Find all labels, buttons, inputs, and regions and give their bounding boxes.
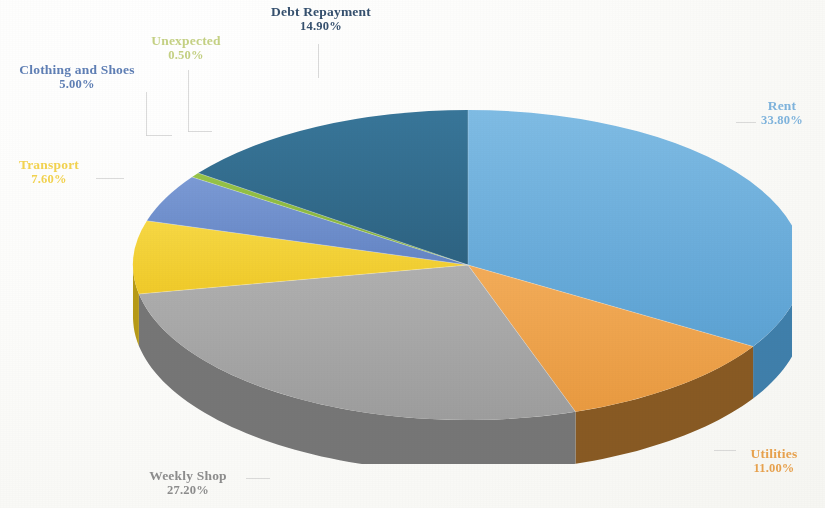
- leader-line-unexpected-v: [188, 70, 189, 132]
- data-label-weekly-shop: Weekly Shop 27.20%: [126, 468, 250, 497]
- data-label-weekly-shop-percent: 27.20%: [126, 483, 250, 497]
- data-label-unexpected-percent: 0.50%: [128, 48, 244, 62]
- data-label-rent-percent: 33.80%: [738, 113, 825, 127]
- data-label-debt-repayment: Debt Repayment 14.90%: [246, 4, 396, 33]
- leader-line-clothing-h: [146, 135, 172, 136]
- data-label-utilities: Utilities 11.00%: [722, 446, 825, 475]
- pie-chart-figure: Debt Repayment 14.90% Unexpected 0.50% C…: [0, 0, 825, 508]
- data-label-clothing-and-shoes-percent: 5.00%: [0, 77, 156, 91]
- data-label-unexpected-name: Unexpected: [128, 33, 244, 48]
- data-label-debt-repayment-name: Debt Repayment: [246, 4, 396, 19]
- data-label-debt-repayment-percent: 14.90%: [246, 19, 396, 33]
- leader-line-unexpected-h: [188, 131, 212, 132]
- data-label-transport-percent: 7.60%: [0, 172, 104, 186]
- leader-line-debt-repayment: [318, 44, 319, 78]
- leader-line-clothing-v: [146, 92, 147, 136]
- pie-chart-graphic: [92, 52, 792, 464]
- data-label-weekly-shop-name: Weekly Shop: [126, 468, 250, 483]
- data-label-utilities-percent: 11.00%: [722, 461, 825, 475]
- data-label-rent-name: Rent: [738, 98, 825, 113]
- data-label-clothing-and-shoes: Clothing and Shoes 5.00%: [0, 62, 156, 91]
- pie-3d-svg: [92, 52, 792, 464]
- data-label-rent: Rent 33.80%: [738, 98, 825, 127]
- data-label-utilities-name: Utilities: [722, 446, 825, 461]
- data-label-unexpected: Unexpected 0.50%: [128, 33, 244, 62]
- data-label-transport-name: Transport: [0, 157, 104, 172]
- data-label-transport: Transport 7.60%: [0, 157, 104, 186]
- data-label-clothing-and-shoes-name: Clothing and Shoes: [0, 62, 156, 77]
